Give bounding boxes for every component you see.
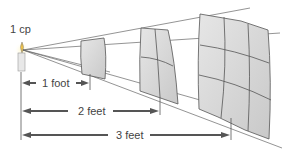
- inverse-square-diagram: 1 cp 1 foot: [0, 0, 289, 150]
- distance-arrow-3-feet: 3 feet: [22, 118, 231, 141]
- candle-icon: [14, 42, 30, 71]
- distance-label-1: 1 foot: [42, 77, 70, 89]
- distance-label-2: 2 feet: [78, 105, 106, 117]
- surface-2-feet: [140, 28, 178, 104]
- distance-arrow-1-foot: 1 foot: [22, 74, 90, 90]
- distance-arrow-2-feet: 2 feet: [22, 97, 160, 117]
- source-label: 1 cp: [10, 23, 31, 35]
- distance-label-3: 3 feet: [116, 129, 144, 141]
- surface-1-foot: [81, 38, 106, 79]
